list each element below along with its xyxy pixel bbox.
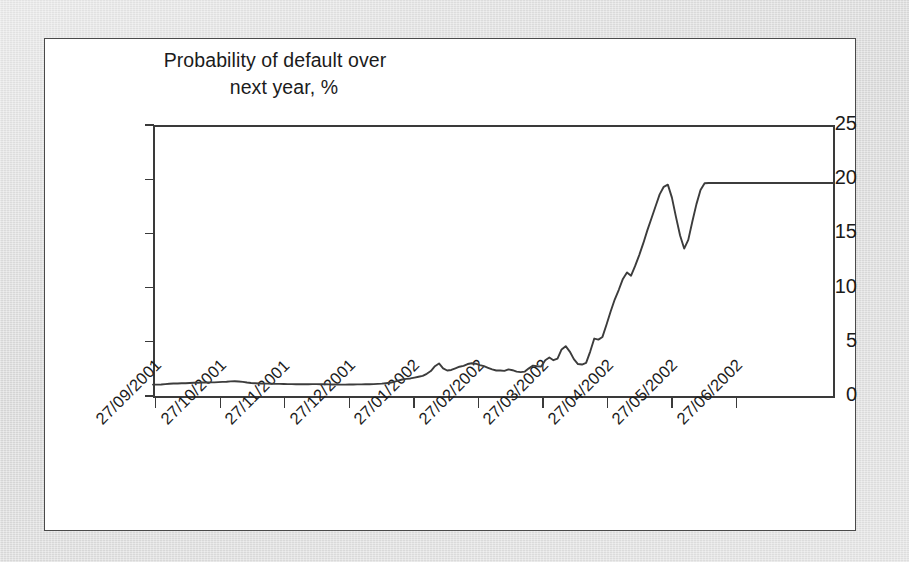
default-probability-line (153, 183, 834, 385)
x-axis-tick (542, 397, 543, 408)
x-axis-tick (671, 397, 672, 408)
figure-panel: Probability of default over next year, %… (44, 38, 856, 531)
x-axis-tick (413, 397, 414, 408)
x-axis-tick (284, 397, 285, 408)
x-axis-tick (349, 397, 350, 408)
x-axis-tick (220, 397, 221, 408)
x-axis-tick (478, 397, 479, 408)
data-plot (153, 125, 834, 396)
x-axis-tick (736, 397, 737, 408)
x-axis-tick (607, 397, 608, 408)
x-axis-tick (155, 397, 156, 408)
plot-wrapper: 0510152025 27/09/200127/10/200127/11/200… (45, 39, 857, 532)
